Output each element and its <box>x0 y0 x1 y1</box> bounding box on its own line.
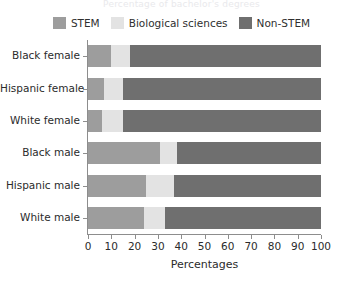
legend-entry: Biological sciences <box>111 17 228 29</box>
x-axis-tick <box>158 235 159 239</box>
y-axis-labels: Black femaleHispanic femaleWhite femaleB… <box>0 40 80 234</box>
bar-segment-biological-sciences <box>146 175 174 197</box>
bar-segment-stem <box>88 175 146 197</box>
bar-segment-stem <box>88 78 104 100</box>
stacked-bar-chart-figure: Percentage of bachelor's degrees STEMBio… <box>0 0 363 290</box>
x-axis-title: Percentages <box>88 258 321 271</box>
legend-entry: Non-STEM <box>239 17 311 29</box>
legend-label: Biological sciences <box>129 17 228 29</box>
y-axis-tick <box>83 186 87 187</box>
x-axis-tick-label: 90 <box>291 240 304 252</box>
x-axis-tick <box>135 235 136 239</box>
x-axis-tick-label: 100 <box>311 240 331 252</box>
x-axis-tick-label: 80 <box>268 240 281 252</box>
y-axis-tick <box>83 56 87 57</box>
y-axis-label-black-female: Black female <box>0 49 80 61</box>
x-axis-tick-label: 10 <box>105 240 118 252</box>
bar-segment-stem <box>88 142 160 164</box>
bar-row <box>88 45 321 67</box>
y-axis-tick <box>83 89 87 90</box>
bar-segment-non-stem <box>123 78 321 100</box>
y-axis-label-black-male: Black male <box>0 146 80 158</box>
bar-segment-biological-sciences <box>160 142 176 164</box>
bar-row <box>88 142 321 164</box>
bar-segment-stem <box>88 207 144 229</box>
bar-segment-non-stem <box>174 175 321 197</box>
bar-segment-non-stem <box>165 207 321 229</box>
x-axis-tick-label: 40 <box>175 240 188 252</box>
chart-legend: STEMBiological sciencesNon-STEM <box>0 16 363 30</box>
x-axis-tick-label: 30 <box>151 240 164 252</box>
y-axis-label-hispanic-male: Hispanic male <box>0 179 80 191</box>
bar-segment-non-stem <box>177 142 321 164</box>
legend-label: STEM <box>71 17 100 29</box>
y-axis-label-white-male: White male <box>0 211 80 223</box>
plot-area <box>88 40 321 234</box>
legend-swatch-non-stem <box>239 17 252 29</box>
x-axis-tick <box>321 235 322 239</box>
x-axis-tick <box>251 235 252 239</box>
x-axis-tick <box>274 235 275 239</box>
y-axis-label-hispanic-female: Hispanic female <box>0 82 80 94</box>
legend-label: Non-STEM <box>257 17 311 29</box>
x-axis-tick <box>88 235 89 239</box>
x-axis-tick-label: 70 <box>244 240 257 252</box>
x-axis-tick <box>181 235 182 239</box>
y-axis-label-white-female: White female <box>0 114 80 126</box>
bar-row <box>88 207 321 229</box>
bar-row <box>88 110 321 132</box>
y-axis-tick <box>83 121 87 122</box>
bar-segment-biological-sciences <box>104 78 123 100</box>
bar-row <box>88 78 321 100</box>
bar-segment-non-stem <box>123 110 321 132</box>
bar-segment-non-stem <box>130 45 321 67</box>
bar-segment-biological-sciences <box>144 207 165 229</box>
x-axis-tick-label: 60 <box>221 240 234 252</box>
x-axis-tick <box>111 235 112 239</box>
cropped-figure-title: Percentage of bachelor's degrees <box>0 0 363 9</box>
x-axis-tick-label: 20 <box>128 240 141 252</box>
y-axis-tick <box>83 218 87 219</box>
x-axis-tick <box>298 235 299 239</box>
y-axis-tick <box>83 153 87 154</box>
x-axis-tick-label: 50 <box>198 240 211 252</box>
bar-segment-stem <box>88 110 102 132</box>
bar-row <box>88 175 321 197</box>
legend-swatch-biological-sciences <box>111 17 124 29</box>
bar-segment-biological-sciences <box>111 45 130 67</box>
bar-segment-stem <box>88 45 111 67</box>
x-axis-tick <box>205 235 206 239</box>
x-axis-tick-label: 0 <box>85 240 92 252</box>
x-axis-tick <box>228 235 229 239</box>
legend-entry: STEM <box>53 17 100 29</box>
legend-swatch-stem <box>53 17 66 29</box>
bar-segment-biological-sciences <box>102 110 123 132</box>
